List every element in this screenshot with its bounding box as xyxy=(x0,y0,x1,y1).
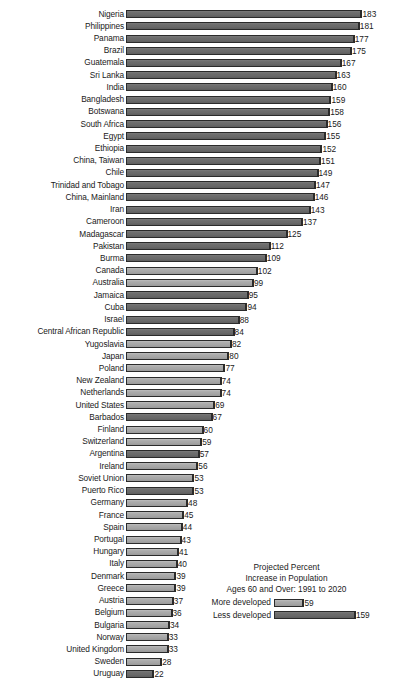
bar-track: 163 xyxy=(126,69,395,81)
bar-row-label: Egypt xyxy=(0,132,126,141)
bar-track: 28 xyxy=(126,656,395,668)
bar-row-label: Austria xyxy=(0,596,126,605)
bar-value-label: 43 xyxy=(182,535,191,544)
bar-more-developed: 102 xyxy=(126,267,258,275)
chart-title-line-2: Increase in Population xyxy=(196,573,395,584)
bar-value-label: 53 xyxy=(194,474,203,483)
bar-more-developed: 36 xyxy=(126,609,173,617)
bar-row: Uruguay22 xyxy=(0,668,395,680)
bar-less-developed: 146 xyxy=(126,193,315,201)
bar-more-developed: 33 xyxy=(126,645,169,653)
bar-more-developed: 77 xyxy=(126,364,225,372)
bar-value-label: 95 xyxy=(249,291,258,300)
bar-row: Nigeria183 xyxy=(0,8,395,20)
bar-more-developed: 48 xyxy=(126,499,188,507)
bar-row: Switzerland59 xyxy=(0,436,395,448)
bar-value-label: 33 xyxy=(169,645,178,654)
bar-track: 33 xyxy=(126,631,395,643)
bar-track: 84 xyxy=(126,326,395,338)
bar-track: 112 xyxy=(126,240,395,252)
bar-value-label: 28 xyxy=(162,657,171,666)
bar-row-label: Bangladesh xyxy=(0,95,126,104)
bar-less-developed: 67 xyxy=(126,413,213,421)
bar-track: 175 xyxy=(126,45,395,57)
bar-row-label: Canada xyxy=(0,266,126,275)
bar-value-label: 59 xyxy=(202,437,211,446)
bar-value-label: 39 xyxy=(176,572,185,581)
bar-row: Bangladesh159 xyxy=(0,94,395,106)
bar-value-label: 39 xyxy=(176,584,185,593)
bar-less-developed: 152 xyxy=(126,145,322,153)
bar-row: China, Taiwan151 xyxy=(0,155,395,167)
bar-value-label: 125 xyxy=(288,230,302,239)
bar-row-label: Sri Lanka xyxy=(0,71,126,80)
bar-row: Barbados67 xyxy=(0,411,395,423)
chart-title-line-3: Ages 60 and Over: 1991 to 2020 xyxy=(196,584,395,595)
bar-less-developed: 149 xyxy=(126,169,319,177)
bar-row: United States69 xyxy=(0,399,395,411)
bar-track: 137 xyxy=(126,216,395,228)
bar-row: New Zealand74 xyxy=(0,375,395,387)
bar-row: Australia99 xyxy=(0,277,395,289)
bar-value-label: 48 xyxy=(188,498,197,507)
bar-track: 160 xyxy=(126,81,395,93)
bar-row-label: Greece xyxy=(0,584,126,593)
bar-row: Chile149 xyxy=(0,167,395,179)
bar-less-developed: 181 xyxy=(126,22,360,30)
bar-row-label: Chile xyxy=(0,168,126,177)
bar-more-developed: 33 xyxy=(126,633,169,641)
bar-more-developed: 74 xyxy=(126,389,222,397)
bar-row-label: Poland xyxy=(0,364,126,373)
chart-legend: Projected Percent Increase in Population… xyxy=(196,562,395,621)
bar-row-label: Belgium xyxy=(0,608,126,617)
legend-bar-track: 59 xyxy=(274,597,395,609)
bar-less-developed: 159 xyxy=(126,96,331,104)
bar-row-label: Sweden xyxy=(0,657,126,666)
bar-track: 159 xyxy=(126,94,395,106)
legend-value-label: 159 xyxy=(356,611,370,620)
bar-less-developed: 167 xyxy=(126,59,342,67)
bar-less-developed: 151 xyxy=(126,157,321,165)
bar-more-developed: 39 xyxy=(126,572,176,580)
bar-row: Philippines181 xyxy=(0,20,395,32)
bar-value-label: 82 xyxy=(232,340,241,349)
bar-value-label: 167 xyxy=(342,58,356,67)
bar-more-developed: 56 xyxy=(126,462,198,470)
bar-row: Botswana158 xyxy=(0,106,395,118)
bar-less-developed: 163 xyxy=(126,71,337,79)
bar-track: 60 xyxy=(126,423,395,435)
bar-track: 43 xyxy=(126,533,395,545)
bar-row-label: Italy xyxy=(0,559,126,568)
bar-less-developed: 112 xyxy=(126,242,271,250)
bar-less-developed: 84 xyxy=(126,328,235,336)
bar-row: Brazil175 xyxy=(0,45,395,57)
bar-track: 48 xyxy=(126,497,395,509)
bar-row-label: Puerto Rico xyxy=(0,486,126,495)
bar-row: United Kingdom33 xyxy=(0,643,395,655)
bar-track: 44 xyxy=(126,521,395,533)
bar-row-label: Japan xyxy=(0,352,126,361)
bar-track: 147 xyxy=(126,179,395,191)
bar-row: Yugoslavia82 xyxy=(0,338,395,350)
legend-swatch-more-developed: 59 xyxy=(274,599,304,607)
bar-track: 53 xyxy=(126,472,395,484)
bar-row: Panama177 xyxy=(0,32,395,44)
bar-value-label: 22 xyxy=(154,669,163,678)
bar-row: Japan80 xyxy=(0,350,395,362)
bar-row-label: Barbados xyxy=(0,413,126,422)
bar-track: 53 xyxy=(126,485,395,497)
bar-more-developed: 44 xyxy=(126,523,183,531)
bar-value-label: 34 xyxy=(170,621,179,630)
bar-track: 33 xyxy=(126,643,395,655)
bar-value-label: 146 xyxy=(315,193,329,202)
bar-row: Israel88 xyxy=(0,313,395,325)
bar-value-label: 37 xyxy=(174,596,183,605)
bar-row-label: China, Mainland xyxy=(0,193,126,202)
bar-row: Ethiopia152 xyxy=(0,142,395,154)
legend-entries: More developed59Less developed159 xyxy=(196,597,395,622)
bar-value-label: 57 xyxy=(200,449,209,458)
bar-track: 143 xyxy=(126,204,395,216)
bar-less-developed: 158 xyxy=(126,108,330,116)
bar-value-label: 147 xyxy=(316,181,330,190)
bar-track: 125 xyxy=(126,228,395,240)
